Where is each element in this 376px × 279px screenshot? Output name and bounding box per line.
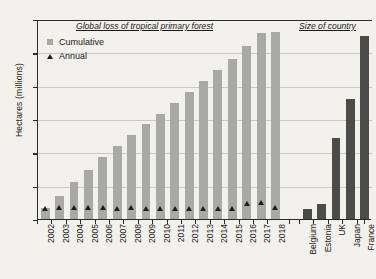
marker-annual bbox=[100, 205, 106, 210]
x-tick-label: 2015 bbox=[235, 224, 244, 243]
marker-annual bbox=[143, 206, 149, 211]
x-tick-mark bbox=[328, 220, 329, 224]
marker-annual bbox=[71, 205, 77, 210]
bar-cumulative bbox=[185, 92, 194, 219]
bar-cumulative bbox=[271, 32, 280, 219]
right-panel-title: Size of country bbox=[299, 21, 356, 31]
x-tick-mark bbox=[357, 220, 358, 224]
x-tick-mark bbox=[253, 220, 254, 224]
bar-country bbox=[332, 138, 341, 219]
x-tick-label: 2016 bbox=[249, 224, 258, 243]
x-tick-label: Japan bbox=[353, 224, 362, 247]
x-tick-label: 2002 bbox=[47, 224, 56, 243]
marker-annual bbox=[42, 206, 48, 211]
marker-annual bbox=[215, 206, 221, 211]
x-tick-mark bbox=[51, 220, 52, 224]
left-panel-title: Global loss of tropical primary forest bbox=[76, 21, 213, 31]
x-tick-mark bbox=[342, 220, 343, 224]
y-tick-mark bbox=[33, 87, 37, 88]
x-tick-mark bbox=[195, 220, 196, 224]
bar-cumulative bbox=[84, 170, 93, 219]
bar-country bbox=[317, 204, 326, 219]
x-tick-mark bbox=[267, 220, 268, 224]
marker-annual bbox=[85, 205, 91, 210]
x-tick-mark bbox=[167, 220, 168, 224]
x-tick-mark bbox=[224, 220, 225, 224]
x-tick-label: 2007 bbox=[119, 224, 128, 243]
y-tick-mark bbox=[33, 153, 37, 154]
legend-label-annual: Annual bbox=[59, 52, 87, 61]
bar-cumulative bbox=[228, 59, 237, 219]
marker-annual bbox=[56, 205, 62, 210]
bar-cumulative bbox=[257, 33, 266, 219]
chart-legend: Cumulative Annual bbox=[47, 36, 104, 64]
square-marker-icon bbox=[47, 39, 53, 45]
bar-country bbox=[303, 209, 312, 219]
marker-annual bbox=[172, 206, 178, 211]
y-tick-mark bbox=[33, 187, 37, 188]
bar-cumulative bbox=[199, 81, 208, 219]
x-tick-mark bbox=[289, 220, 290, 224]
x-tick-label: 2005 bbox=[91, 224, 100, 243]
legend-entry-cumulative: Cumulative bbox=[47, 36, 104, 48]
x-tick-label: Belgium bbox=[309, 224, 318, 255]
forest-loss-chart: Hectares (millions) 0102030405060 200220… bbox=[0, 0, 376, 279]
x-tick-mark bbox=[152, 220, 153, 224]
bar-cumulative bbox=[213, 70, 222, 219]
legend-label-cumulative: Cumulative bbox=[59, 38, 104, 47]
x-tick-label: 2011 bbox=[177, 224, 186, 242]
marker-annual bbox=[128, 205, 134, 210]
x-tick-mark bbox=[95, 220, 96, 224]
x-tick-label: 2008 bbox=[134, 224, 143, 243]
marker-annual bbox=[157, 206, 163, 211]
y-axis-title: Hectares (millions) bbox=[14, 35, 24, 165]
marker-annual bbox=[114, 206, 120, 211]
y-tick-mark bbox=[33, 20, 37, 21]
x-tick-mark bbox=[37, 220, 38, 224]
marker-annual bbox=[200, 206, 206, 211]
x-tick-mark bbox=[364, 220, 365, 224]
x-tick-label: 2009 bbox=[148, 224, 157, 243]
x-tick-mark bbox=[313, 220, 314, 224]
x-tick-label: 2018 bbox=[278, 224, 287, 243]
x-tick-mark bbox=[109, 220, 110, 224]
marker-annual bbox=[258, 200, 264, 205]
marker-annual bbox=[229, 206, 235, 211]
bar-cumulative bbox=[170, 103, 179, 219]
bar-cumulative bbox=[242, 46, 251, 219]
x-tick-label: 2013 bbox=[206, 224, 215, 243]
x-tick-label: 2017 bbox=[263, 224, 272, 243]
x-tick-mark bbox=[80, 220, 81, 224]
marker-annual bbox=[244, 201, 250, 206]
x-tick-label: 2012 bbox=[191, 224, 200, 243]
x-tick-mark bbox=[181, 220, 182, 224]
x-tick-mark bbox=[123, 220, 124, 224]
bar-cumulative bbox=[142, 124, 151, 219]
x-tick-mark bbox=[299, 220, 300, 224]
x-tick-label: Estonia bbox=[324, 224, 333, 252]
x-tick-label: 2003 bbox=[62, 224, 71, 243]
bar-cumulative bbox=[156, 114, 165, 219]
x-tick-label: 2006 bbox=[105, 224, 114, 243]
x-tick-mark bbox=[210, 220, 211, 224]
y-tick-mark bbox=[33, 120, 37, 121]
marker-annual bbox=[272, 205, 278, 210]
x-tick-mark bbox=[138, 220, 139, 224]
bar-cumulative bbox=[70, 182, 79, 219]
x-tick-label: 2010 bbox=[163, 224, 172, 243]
x-tick-mark bbox=[66, 220, 67, 224]
bar-country bbox=[346, 99, 355, 219]
x-tick-label: France bbox=[367, 224, 376, 250]
y-tick-mark bbox=[33, 53, 37, 54]
x-tick-mark bbox=[239, 220, 240, 224]
x-tick-label: UK bbox=[338, 224, 347, 236]
x-tick-label: 2014 bbox=[220, 224, 229, 243]
marker-annual bbox=[186, 206, 192, 211]
x-tick-label: 2004 bbox=[76, 224, 85, 243]
triangle-marker-icon bbox=[47, 54, 53, 59]
bar-country bbox=[360, 36, 369, 219]
legend-entry-annual: Annual bbox=[47, 50, 104, 62]
